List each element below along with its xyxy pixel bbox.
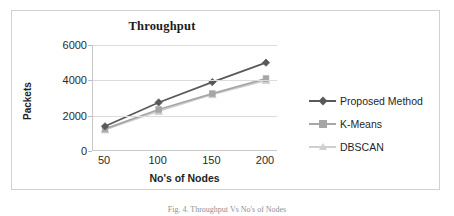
gridline <box>93 80 277 81</box>
x-tick-label: 100 <box>148 154 166 166</box>
y-axis-title: Packets <box>20 66 34 136</box>
chart-container: Throughput Packets 0200040006000 5010015… <box>11 10 440 190</box>
x-tick-label: 150 <box>202 154 220 166</box>
y-tick-label: 4000 <box>63 74 87 86</box>
gridline <box>93 116 277 117</box>
figure-caption: Fig. 4. Throughput Vs No's of Nodes <box>0 205 454 216</box>
x-tick-label: 200 <box>256 154 274 166</box>
legend-swatch <box>309 140 336 154</box>
data-series-layer <box>93 45 278 151</box>
series-marker <box>262 59 269 66</box>
legend-item-proposed-method[interactable]: Proposed Method <box>309 89 444 112</box>
y-tick-mark <box>88 151 92 152</box>
y-axis-tick-labels: 0200040006000 <box>34 45 92 151</box>
y-tick-label: 6000 <box>63 39 87 51</box>
series-marker <box>155 99 162 106</box>
y-tick-label: 2000 <box>63 110 87 122</box>
legend-item-k-means[interactable]: K-Means <box>309 112 444 135</box>
legend-label: DBSCAN <box>340 141 384 153</box>
legend-label: K-Means <box>340 118 382 130</box>
y-tick-label: 0 <box>81 145 87 157</box>
chart-legend: Proposed MethodK-MeansDBSCAN <box>309 89 444 158</box>
series-marker <box>210 91 216 97</box>
legend-label: Proposed Method <box>340 95 423 107</box>
figure-page: Throughput Packets 0200040006000 5010015… <box>0 0 454 216</box>
legend-marker-square-icon <box>319 120 327 128</box>
series-line <box>105 80 266 129</box>
legend-item-dbscan[interactable]: DBSCAN <box>309 135 444 158</box>
series-line <box>105 63 266 127</box>
x-axis-title: No's of Nodes <box>92 172 277 184</box>
x-tick-label: 50 <box>98 154 110 166</box>
legend-swatch <box>309 94 336 108</box>
gridline <box>93 45 277 46</box>
legend-marker-diamond-icon <box>319 96 328 105</box>
chart-title: Throughput <box>12 19 312 34</box>
plot-area <box>92 45 277 151</box>
x-axis-tick-labels: 50100150200 <box>92 154 277 170</box>
legend-marker-triangle-icon <box>319 143 327 150</box>
legend-swatch <box>309 117 336 131</box>
series-marker <box>156 107 162 113</box>
